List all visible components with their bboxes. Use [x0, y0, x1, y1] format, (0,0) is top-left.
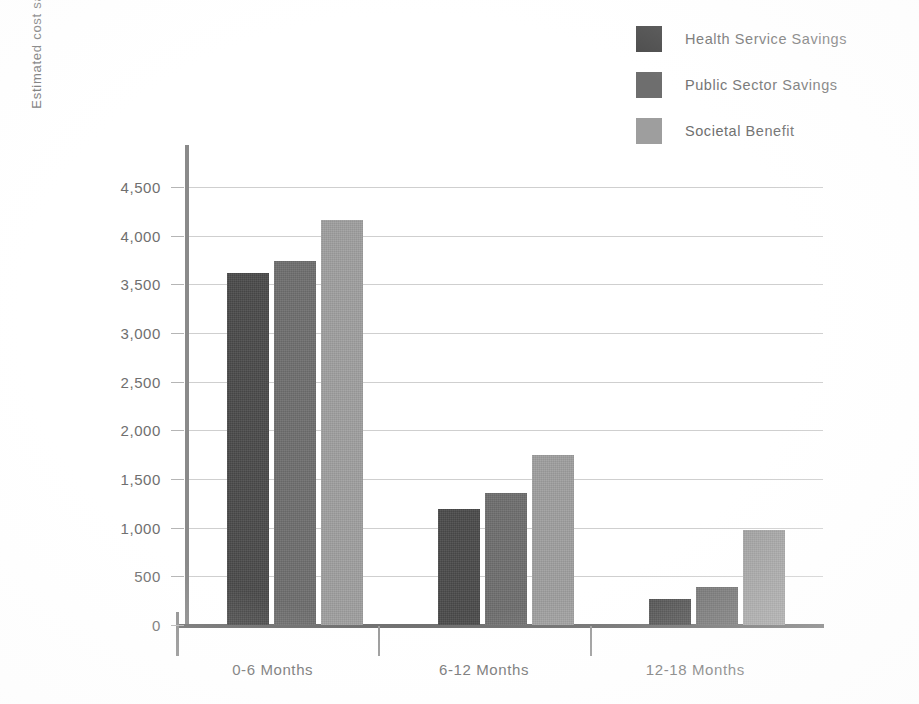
bar: [321, 220, 363, 625]
bar: [696, 587, 738, 625]
y-axis-tick-mark: [171, 528, 184, 529]
legend-item: Health Service Savings: [636, 26, 847, 52]
y-axis-tick-mark: [171, 187, 184, 188]
y-axis-title: Estimated cost saving per service user (…: [16, 0, 56, 192]
category-separator-tick: [378, 626, 380, 656]
category-separator-tick: [590, 626, 592, 656]
bar: [438, 509, 480, 625]
y-axis-tick-label: 4,000: [71, 227, 161, 244]
y-axis-tick-mark: [171, 284, 184, 285]
y-axis-tick-label: 0: [71, 617, 161, 634]
y-axis-tick-mark: [171, 576, 184, 577]
legend-label: Health Service Savings: [685, 31, 847, 47]
y-axis-tick-label: 2,500: [71, 373, 161, 390]
gridline: [189, 187, 823, 188]
bar: [485, 493, 527, 625]
y-axis-tick-label: 1,500: [71, 471, 161, 488]
y-axis-tick-mark: [171, 625, 184, 626]
x-axis-category-label: 12-18 Months: [646, 661, 745, 678]
y-axis-tick-mark: [171, 382, 184, 383]
x-axis-category-label: 0-6 Months: [232, 661, 313, 678]
y-axis-tick-label: 500: [71, 568, 161, 585]
bar: [532, 455, 574, 625]
x-axis-origin-tick: [176, 612, 179, 656]
y-axis-tick-label: 4,500: [71, 179, 161, 196]
y-axis-tick-label: 2,000: [71, 422, 161, 439]
legend-swatch-health-service-savings: [636, 26, 662, 52]
y-axis-tick-label: 3,500: [71, 276, 161, 293]
y-axis-tick-mark: [171, 479, 184, 480]
chart-legend: Health Service Savings Public Sector Sav…: [636, 26, 847, 144]
legend-label: Societal Benefit: [685, 123, 795, 139]
plot-area: [189, 187, 823, 625]
x-axis-category-label: 6-12 Months: [439, 661, 529, 678]
legend-label: Public Sector Savings: [685, 77, 838, 93]
y-axis-tick-mark: [171, 430, 184, 431]
legend-item: Public Sector Savings: [636, 72, 847, 98]
bar: [227, 273, 269, 625]
gridline: [189, 236, 823, 237]
y-axis-tick-label: 3,000: [71, 325, 161, 342]
legend-swatch-public-sector-savings: [636, 72, 662, 98]
bar: [743, 530, 785, 625]
bar: [274, 261, 316, 625]
y-axis-tick-mark: [171, 236, 184, 237]
legend-item: Societal Benefit: [636, 118, 847, 144]
y-axis-tick-mark: [171, 333, 184, 334]
legend-swatch-societal-benefit: [636, 118, 662, 144]
y-axis-tick-label: 1,000: [71, 519, 161, 536]
bar: [649, 599, 691, 625]
